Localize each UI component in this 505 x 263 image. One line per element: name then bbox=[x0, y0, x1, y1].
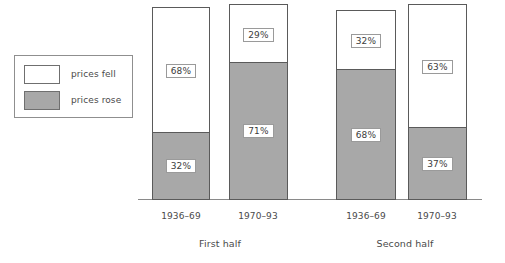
data-label-prices-rose: 71% bbox=[243, 124, 274, 138]
bar-segment-prices-fell: 68% bbox=[153, 8, 209, 134]
data-label-prices-rose: 68% bbox=[351, 128, 382, 142]
stacked-bar-chart: prices fell prices rose 68% 32% 29% 71% bbox=[0, 0, 505, 263]
bar-first-half-1970-93: 29% 71% bbox=[229, 4, 288, 200]
bar-segment-prices-fell: 32% bbox=[337, 11, 395, 71]
plot-area: 68% 32% 29% 71% 32% 68% bbox=[0, 0, 505, 263]
x-tick-label-second-half-1936-69: 1936–69 bbox=[336, 211, 396, 221]
data-label-prices-rose: 37% bbox=[422, 157, 453, 171]
group-label-second-half: Second half bbox=[362, 238, 448, 249]
bar-segment-prices-rose: 32% bbox=[153, 132, 209, 199]
bar-segment-prices-fell: 29% bbox=[230, 5, 287, 64]
bar-segment-prices-rose: 71% bbox=[230, 62, 287, 199]
bar-second-half-1970-93: 63% 37% bbox=[408, 4, 467, 200]
group-label-first-half: First half bbox=[180, 238, 260, 249]
x-tick-label-second-half-1970-93: 1970–93 bbox=[407, 211, 467, 221]
bar-segment-prices-rose: 37% bbox=[409, 127, 466, 199]
data-label-prices-fell: 29% bbox=[243, 28, 274, 42]
bar-segment-prices-rose: 68% bbox=[337, 69, 395, 199]
data-label-prices-fell: 68% bbox=[166, 64, 197, 78]
data-label-prices-rose: 32% bbox=[166, 159, 197, 173]
data-label-prices-fell: 63% bbox=[422, 60, 453, 74]
data-label-prices-fell: 32% bbox=[351, 34, 382, 48]
x-tick-label-first-half-1970-93: 1970–93 bbox=[228, 211, 288, 221]
x-tick-label-first-half-1936-69: 1936–69 bbox=[151, 211, 211, 221]
bar-second-half-1936-69: 32% 68% bbox=[336, 10, 396, 200]
bar-first-half-1936-69: 68% 32% bbox=[152, 7, 210, 200]
bar-segment-prices-fell: 63% bbox=[409, 5, 466, 129]
